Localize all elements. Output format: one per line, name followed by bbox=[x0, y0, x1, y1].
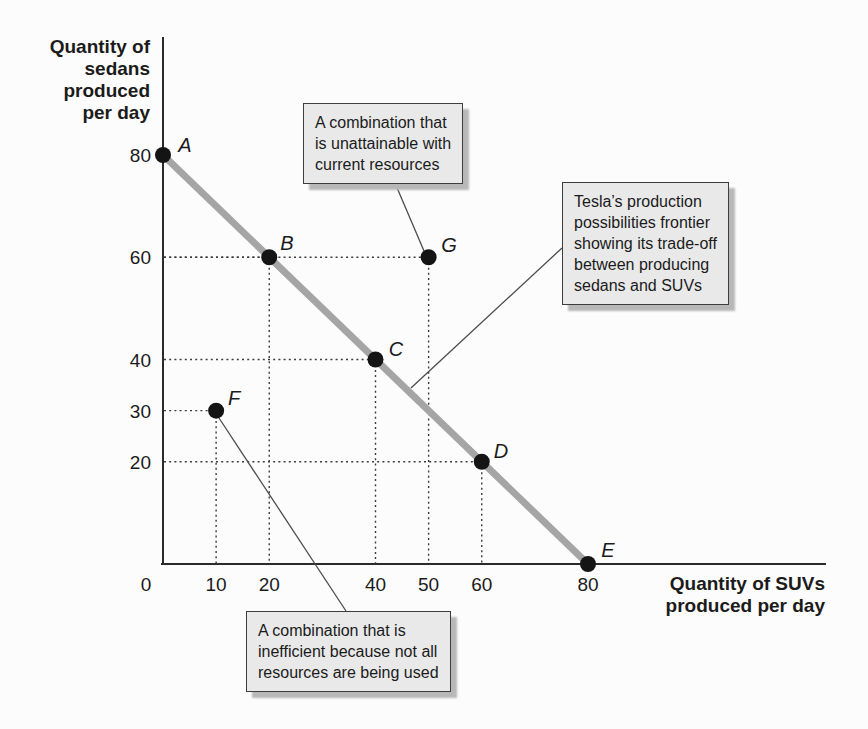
x-tick-label-10: 10 bbox=[206, 574, 227, 595]
data-point-C bbox=[368, 352, 384, 368]
data-point-G bbox=[421, 249, 437, 265]
callout-frontier: Tesla’s production possibilities frontie… bbox=[562, 182, 729, 305]
point-label-B: B bbox=[280, 232, 293, 254]
point-label-F: F bbox=[228, 387, 242, 409]
point-label-C: C bbox=[389, 338, 404, 360]
data-point-A bbox=[155, 147, 171, 163]
y-tick-label-80: 80 bbox=[130, 145, 151, 166]
point-label-D: D bbox=[494, 440, 508, 462]
point-label-G: G bbox=[441, 234, 457, 256]
point-label-E: E bbox=[601, 539, 615, 561]
callout-unattainable: A combination that is unattainable with … bbox=[303, 103, 463, 184]
x-tick-label-0: 0 bbox=[141, 574, 152, 595]
x-tick-label-60: 60 bbox=[471, 574, 492, 595]
y-tick-label-30: 30 bbox=[130, 401, 151, 422]
leader-inefficient bbox=[219, 418, 346, 611]
data-point-D bbox=[474, 454, 490, 470]
y-tick-label-60: 60 bbox=[130, 247, 151, 268]
leader-unattainable bbox=[395, 183, 424, 251]
x-tick-label-20: 20 bbox=[259, 574, 280, 595]
point-label-A: A bbox=[177, 134, 191, 156]
x-tick-label-40: 40 bbox=[365, 574, 386, 595]
data-point-B bbox=[261, 249, 277, 265]
ppf-figure: ABCDEFG80604030200102040506080 Quantity … bbox=[0, 0, 868, 729]
callout-inefficient: A combination that is inefficient becaus… bbox=[246, 611, 451, 692]
y-tick-label-20: 20 bbox=[130, 452, 151, 473]
x-axis-title: Quantity of SUVs produced per day bbox=[645, 573, 825, 617]
x-tick-label-80: 80 bbox=[577, 574, 598, 595]
x-tick-label-50: 50 bbox=[418, 574, 439, 595]
leader-frontier bbox=[411, 248, 562, 388]
y-axis-title: Quantity of sedans produced per day bbox=[38, 36, 150, 124]
data-point-E bbox=[580, 556, 596, 572]
data-point-F bbox=[208, 403, 224, 419]
y-tick-label-40: 40 bbox=[130, 350, 151, 371]
